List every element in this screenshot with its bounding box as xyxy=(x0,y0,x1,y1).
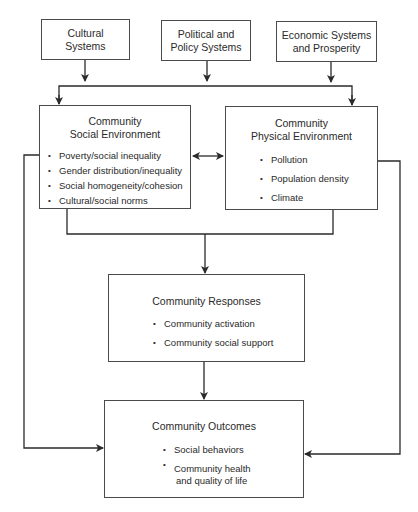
list-item: Social homogeneity/cohesion xyxy=(48,178,190,193)
list-item: Social behaviors xyxy=(163,440,303,459)
cultural-systems-line1: Cultural xyxy=(65,27,105,40)
list-item: Climate xyxy=(260,188,377,207)
list-item: Community health and quality of life xyxy=(163,459,303,487)
social-env-title-line2: Social Environment xyxy=(40,128,190,141)
community-responses-box: Community Responses Community activation… xyxy=(108,274,305,362)
responses-title: Community Responses xyxy=(109,295,304,308)
economic-systems-line1: Economic Systems xyxy=(282,29,371,42)
social-environment-box: Community Social Environment Poverty/soc… xyxy=(39,105,191,209)
list-item: Cultural/social norms xyxy=(48,193,190,208)
social-env-title-line1: Community xyxy=(40,115,190,128)
physical-environment-box: Community Physical Environment Pollution… xyxy=(225,106,378,210)
merge-line xyxy=(67,209,333,234)
economic-systems-line2: and Prosperity xyxy=(282,42,371,55)
economic-systems-box: Economic Systems and Prosperity xyxy=(276,21,377,62)
political-systems-line1: Political and xyxy=(170,28,241,41)
political-systems-box: Political and Policy Systems xyxy=(161,20,251,61)
physical-env-title-line2: Physical Environment xyxy=(226,130,377,143)
community-outcomes-box: Community Outcomes Social behaviors Comm… xyxy=(104,400,304,498)
cultural-systems-line2: Systems xyxy=(65,40,105,53)
outcome-item2-line2: and quality of life xyxy=(174,475,247,486)
outcome-item2-line1: Community health xyxy=(174,463,251,474)
bus-line xyxy=(59,86,352,105)
physical-env-title-line1: Community xyxy=(226,117,377,130)
list-item: Community activation xyxy=(153,314,304,333)
cultural-systems-box: Cultural Systems xyxy=(41,19,130,60)
list-item: Community social support xyxy=(153,333,304,352)
list-item: Gender distribution/inequality xyxy=(48,163,190,178)
list-item: Pollution xyxy=(260,150,377,169)
outcomes-title: Community Outcomes xyxy=(105,420,303,433)
political-systems-line2: Policy Systems xyxy=(170,41,241,54)
list-item: Poverty/social inequality xyxy=(48,148,190,163)
list-item: Population density xyxy=(260,169,377,188)
